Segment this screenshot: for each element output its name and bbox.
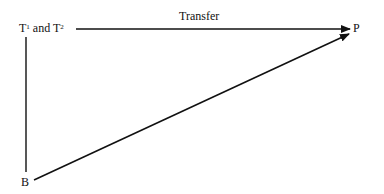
node-b: B bbox=[21, 176, 29, 188]
node-p: P bbox=[353, 22, 360, 34]
b-to-p-arrow bbox=[34, 34, 349, 180]
transfer-label: Transfer bbox=[179, 10, 219, 22]
and-text: and bbox=[30, 21, 53, 35]
t1-superscript: 1 bbox=[26, 23, 30, 31]
t2-superscript: 2 bbox=[60, 23, 64, 31]
node-t1-t2: T1 and T2 bbox=[19, 22, 64, 34]
